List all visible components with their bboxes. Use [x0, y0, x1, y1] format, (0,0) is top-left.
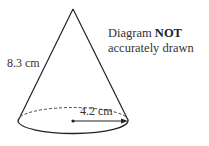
cone-diagram: 8.3 cm 4.2 cm Diagram NOT accurately dra…: [0, 0, 209, 146]
slant-height-label: 8.3 cm: [7, 56, 40, 70]
note-line-2: accurately drawn: [108, 41, 194, 55]
radius-label: 4.2 cm: [80, 104, 113, 118]
note-line-1: Diagram NOT: [108, 26, 183, 40]
note-emphasis: NOT: [155, 26, 183, 40]
note-prefix: Diagram: [108, 26, 155, 40]
